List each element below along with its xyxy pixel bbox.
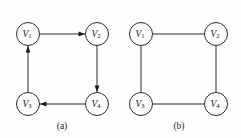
node-v3[interactable]: V3 [17,93,40,116]
node-v3[interactable]: V3 [130,93,153,116]
arrow-head-v3 [40,102,47,107]
panel-caption: (b) [173,121,184,132]
panel-a: V1V2V3V4(a) [17,23,109,133]
node-v1[interactable]: V1 [130,23,153,46]
node-v4[interactable]: V4 [86,93,109,116]
node-label-subscript: 3 [28,102,31,109]
node-v2[interactable]: V2 [205,23,228,46]
node-label-subscript: 1 [28,32,31,39]
arrow-head-v4 [95,86,100,93]
edge-v1-v2 [40,32,85,37]
node-label-subscript: 1 [141,32,144,39]
node-label-subscript: 2 [97,32,100,39]
edge-v4-v3 [40,102,85,107]
panel-b: V1V2V3V4(b) [130,23,228,133]
node-v1[interactable]: V1 [17,23,40,46]
node-label-subscript: 2 [216,32,219,39]
panel-caption: (a) [57,121,68,132]
node-v2[interactable]: V2 [86,23,109,46]
figure-container: V1V2V3V4(a)V1V2V3V4(b) [0,0,241,138]
node-label-subscript: 3 [141,102,144,109]
arrow-head-v1 [26,46,31,53]
node-v4[interactable]: V4 [205,93,228,116]
edge-v2-v4 [95,46,100,92]
graph-figure-svg: V1V2V3V4(a)V1V2V3V4(b) [0,0,241,138]
arrow-head-v2 [79,32,86,37]
edge-v3-v1 [26,46,31,92]
